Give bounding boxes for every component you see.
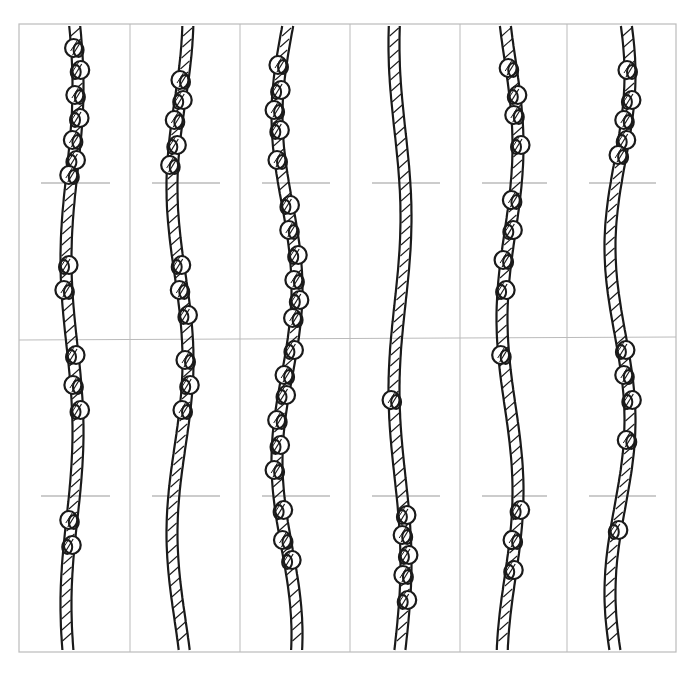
rope-twist-hatch (504, 391, 513, 399)
knot (60, 511, 79, 529)
knot (622, 91, 641, 109)
rope-twist-hatch (64, 204, 73, 212)
knot (269, 151, 288, 169)
rope-twist-hatch (613, 314, 622, 322)
rope-twist-hatch (512, 457, 521, 465)
knot (504, 531, 523, 549)
rope-twist-hatch (182, 50, 191, 58)
rope-twist-hatch (172, 248, 181, 256)
knot (496, 281, 514, 299)
knot (271, 436, 290, 454)
rope-twist-hatch (178, 424, 187, 432)
rope-twist-hatch (395, 303, 404, 311)
rope-twist-hatch (393, 105, 402, 113)
rope-twist-hatch (507, 413, 516, 421)
knot (66, 346, 85, 364)
rope-twist-hatch (292, 611, 301, 619)
rope-twist-hatch (393, 446, 402, 454)
rope-twist-hatch (503, 589, 512, 597)
rope-twist-hatch (63, 633, 72, 641)
rope-twist-hatch (624, 39, 633, 47)
rope-6 (605, 26, 641, 650)
rope-twist-hatch (501, 611, 510, 619)
knot (65, 39, 84, 57)
rope-twist-hatch (397, 633, 406, 641)
knot (511, 136, 530, 154)
knot (71, 401, 90, 419)
rope-twist-hatch (69, 501, 78, 509)
knot (71, 61, 90, 79)
rope-twist-hatch (606, 259, 615, 267)
rope-twist-hatch (607, 215, 616, 223)
rope-twist-hatch (513, 468, 522, 476)
rope-twist-hatch (172, 589, 181, 597)
rope-twist-hatch (609, 292, 618, 300)
rope-twist-hatch (394, 457, 403, 465)
rope-twist-hatch (399, 160, 408, 168)
rope-twist-hatch (172, 468, 181, 476)
knot (618, 431, 637, 449)
knot (622, 391, 641, 409)
row-divider (19, 337, 676, 340)
rope-twist-hatch (402, 215, 411, 223)
rope-twist-hatch (174, 457, 183, 465)
knot (495, 251, 513, 269)
knot (290, 291, 309, 309)
rope-twist-hatch (396, 127, 405, 135)
rope-twist-hatch (72, 468, 81, 476)
rope-twist-hatch (399, 611, 408, 619)
rope-twist-hatch (505, 50, 514, 58)
rope-twist-hatch (176, 622, 185, 630)
rope-twist-hatch (293, 633, 302, 641)
knot (615, 366, 634, 384)
rope-twist-hatch (73, 457, 82, 465)
rope-twist-hatch (65, 193, 74, 201)
rope-twist-hatch (394, 314, 403, 322)
knot (397, 506, 416, 524)
rope-twist-hatch (502, 600, 511, 608)
rope-twist-hatch (288, 578, 297, 586)
rope-twist-hatch (70, 490, 79, 498)
knot (280, 196, 299, 214)
rope-twist-hatch (609, 545, 618, 553)
rope-twist-hatch (64, 303, 73, 311)
knot (177, 351, 196, 369)
rope-twist-hatch (606, 589, 615, 597)
knot (64, 376, 83, 394)
rope-twist-hatch (506, 402, 515, 410)
rope-twist-hatch (500, 270, 509, 278)
rope-twist-hatch (625, 50, 634, 58)
rope-twist-hatch (62, 600, 71, 608)
rope-twist-hatch (606, 600, 615, 608)
rope-twist-hatch (278, 171, 287, 179)
knot (59, 256, 78, 274)
rope-twist-hatch (394, 116, 403, 124)
rope-twist-hatch (606, 237, 615, 245)
knot (172, 71, 191, 89)
rope-twist-hatch (514, 490, 523, 498)
rope-twist-hatch (168, 523, 177, 531)
rope-twist-hatch (401, 193, 410, 201)
rope-twist-hatch (168, 545, 177, 553)
rope-twist-hatch (395, 468, 404, 476)
rope-twist-hatch (618, 490, 627, 498)
rope-twist-hatch (615, 325, 624, 333)
rope-twist-hatch (62, 622, 71, 630)
rope-twist-hatch (390, 413, 399, 421)
rope-twist-hatch (170, 490, 179, 498)
knot (60, 166, 79, 184)
rope-twist-hatch (398, 281, 407, 289)
rope-twist-hatch (291, 600, 300, 608)
knot (64, 131, 83, 149)
rope-twist-hatch (498, 303, 507, 311)
rope-twist-hatch (509, 424, 518, 432)
knot (173, 91, 192, 109)
knot (270, 121, 289, 139)
rope-twist-hatch (621, 468, 630, 476)
knot (282, 551, 301, 569)
rope-twist-hatch (608, 281, 617, 289)
rope-twist-hatch (168, 512, 177, 520)
knot (178, 306, 197, 324)
knot (399, 546, 418, 564)
rope-twist-hatch (611, 303, 620, 311)
